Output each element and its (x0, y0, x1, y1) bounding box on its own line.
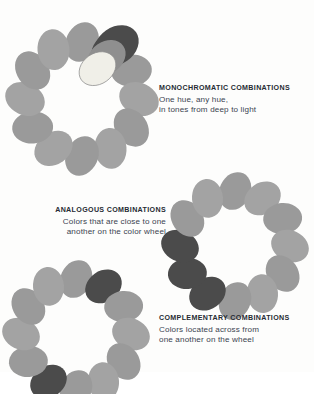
analogous-wheel-svg (163, 174, 305, 308)
complementary-caption-line-2: one another on the wheel (159, 335, 311, 345)
monochromatic-color-wheel (10, 14, 155, 184)
complementary-caption-title: COMPLEMENTARY COMBINATIONS (159, 314, 311, 323)
analogous-caption-line-2: another on the color wheel (20, 227, 166, 237)
analogous-caption-line-1: Colors that are close to one (20, 217, 166, 227)
analogous-caption: ANALOGOUS COMBINATIONS Colors that are c… (20, 206, 166, 237)
complementary-color-wheel (8, 264, 148, 394)
monochromatic-wheel-svg (10, 14, 155, 184)
monochromatic-caption-line-2: in tones from deep to light (159, 105, 309, 115)
complementary-caption: COMPLEMENTARY COMBINATIONS Colors locate… (159, 314, 311, 345)
monochromatic-caption: MONOCHROMATIC COMBINATIONS One hue, any … (159, 84, 309, 115)
monochromatic-caption-title: MONOCHROMATIC COMBINATIONS (159, 84, 309, 93)
complementary-wheel-svg (8, 264, 148, 394)
monochromatic-caption-line-1: One hue, any hue, (159, 95, 309, 105)
analogous-color-wheel (163, 174, 305, 308)
analogous-caption-title: ANALOGOUS COMBINATIONS (20, 206, 166, 215)
complementary-caption-line-1: Colors located across from (159, 325, 311, 335)
